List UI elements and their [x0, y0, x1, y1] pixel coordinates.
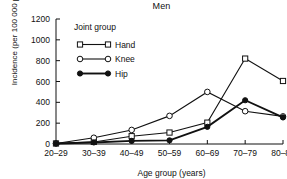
y-tick-label: 600 — [36, 77, 50, 87]
legend-marker-knee — [77, 56, 83, 62]
series-marker-knee — [205, 89, 211, 95]
legend-marker-hip — [105, 71, 110, 76]
series-marker-hip — [91, 140, 96, 145]
series-line-hip — [56, 100, 283, 143]
series-marker-hip — [243, 98, 248, 103]
chart-axes — [56, 19, 283, 144]
series-marker-knee — [129, 127, 135, 133]
legend-title: Joint group — [74, 22, 116, 32]
y-tick-label: 1000 — [31, 35, 50, 45]
legend-marker-hand — [77, 42, 82, 47]
series-marker-hip — [167, 138, 172, 143]
x-tick-label: 50–59 — [158, 148, 182, 158]
y-tick-label: 200 — [36, 118, 50, 128]
x-tick-label: 40–49 — [120, 148, 144, 158]
y-tick-label: 800 — [36, 56, 50, 66]
legend-label-hand: Hand — [115, 40, 136, 50]
chart-plot-area: 02004006008001000120020–2930–3940–4950–5… — [0, 0, 287, 179]
x-tick-label: 20–29 — [44, 148, 68, 158]
y-tick-label: 400 — [36, 97, 50, 107]
x-tick-label: 70–79 — [233, 148, 257, 158]
x-tick-label: 60–69 — [196, 148, 220, 158]
x-tick-label: 80–89 — [271, 148, 287, 158]
legend-marker-hand — [105, 42, 110, 47]
series-marker-hand — [167, 130, 172, 135]
series-marker-hip — [129, 138, 134, 143]
y-tick-label: 1200 — [31, 14, 50, 24]
series-marker-hand — [280, 78, 285, 83]
series-marker-hip — [53, 141, 58, 146]
x-tick-label: 30–39 — [82, 148, 106, 158]
x-axis-label: Age group (years) — [56, 168, 287, 178]
legend-marker-knee — [105, 56, 111, 62]
legend-marker-hip — [77, 71, 82, 76]
series-marker-hip — [280, 115, 285, 120]
chart-figure: Men Incidence (per 100 000 person-years)… — [0, 0, 287, 179]
series-marker-knee — [167, 113, 173, 119]
series-marker-knee — [242, 108, 248, 114]
series-marker-hip — [205, 124, 210, 129]
legend-label-knee: Knee — [115, 54, 135, 64]
legend-label-hip: Hip — [115, 69, 128, 79]
series-marker-hand — [243, 56, 248, 61]
